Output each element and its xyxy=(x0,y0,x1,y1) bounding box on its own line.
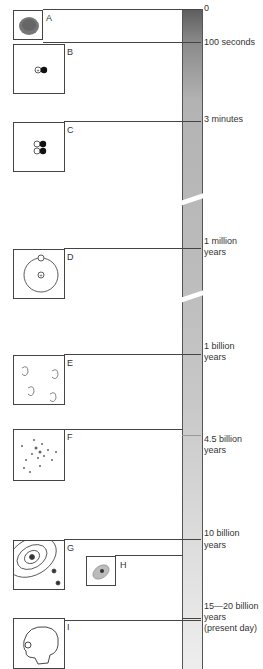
connector-d xyxy=(64,248,201,249)
time-label-1m-line2: years xyxy=(204,247,226,257)
connector-h xyxy=(115,555,183,556)
panel-d: + xyxy=(13,249,65,299)
time-label-10b-line2: years xyxy=(204,540,226,550)
connector-c xyxy=(64,121,201,122)
panel-label-h: H xyxy=(120,560,127,570)
time-label-100s: 100 seconds xyxy=(204,37,255,47)
panel-label-e: E xyxy=(67,358,73,368)
time-label-10b-line1: 10 billion xyxy=(204,528,240,538)
time-label-1m-line1: 1 million xyxy=(204,236,237,246)
panel-label-g: G xyxy=(67,543,74,553)
tick-4-5b xyxy=(182,435,201,436)
time-label-1b-line2: years xyxy=(204,352,226,362)
connector-g xyxy=(64,539,201,540)
connector-i xyxy=(64,620,201,621)
time-label-0: 0 xyxy=(204,3,209,13)
panel-a xyxy=(13,10,43,40)
panel-label-c: C xyxy=(67,125,74,135)
time-label-4-5b-line2: years xyxy=(204,445,226,455)
panel-e xyxy=(13,355,65,405)
panel-label-f: F xyxy=(67,432,73,442)
time-label-present-line1: 15—20 billion xyxy=(204,601,259,611)
panel-f xyxy=(13,429,65,481)
time-label-present-line3: (present day) xyxy=(204,623,257,633)
time-label-3min: 3 minutes xyxy=(204,114,243,124)
panel-i xyxy=(13,618,65,669)
panel-label-b: B xyxy=(67,47,73,57)
svg-text:+: + xyxy=(37,67,40,73)
time-scale-bar xyxy=(182,9,203,669)
svg-text:+: + xyxy=(40,272,43,278)
connector-a-top xyxy=(43,9,201,10)
panel-label-a: A xyxy=(46,13,52,23)
connector-e xyxy=(64,354,201,355)
panel-label-i: I xyxy=(67,622,70,632)
panel-h xyxy=(86,556,116,586)
panel-b: + xyxy=(13,44,65,94)
panel-label-d: D xyxy=(67,252,74,262)
time-label-4-5b-line1: 4.5 billion xyxy=(204,434,242,444)
connector-a xyxy=(43,42,201,43)
time-label-1b-line1: 1 billion xyxy=(204,341,235,351)
tick-present xyxy=(182,618,201,619)
connector-f xyxy=(64,429,183,430)
panel-g xyxy=(13,540,65,590)
panel-c xyxy=(13,122,65,172)
time-label-present-line2: years xyxy=(204,612,226,622)
